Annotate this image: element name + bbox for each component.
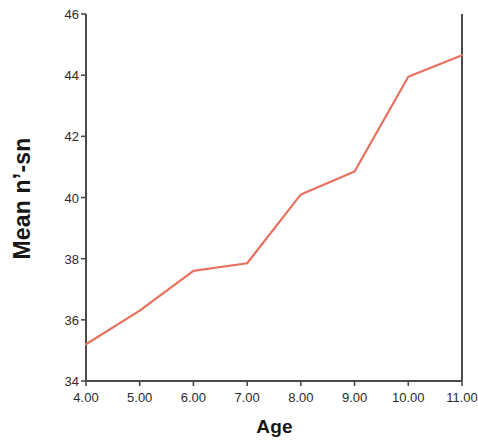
- data-series-line: [86, 55, 462, 344]
